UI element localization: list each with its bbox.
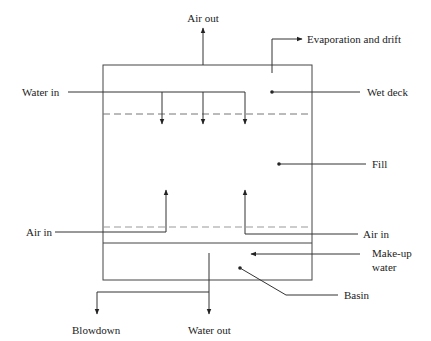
blowdown-label: Blowdown xyxy=(72,324,121,336)
air-in-left-label: Air in xyxy=(26,226,52,238)
water-in-label: Water in xyxy=(22,86,60,98)
makeup-water-label-line1: Make-up xyxy=(372,247,412,259)
evaporation-label: Evaporation and drift xyxy=(307,33,401,45)
basin-leader xyxy=(240,268,338,295)
air-in-left-arrow xyxy=(55,190,166,232)
tower-outline xyxy=(103,65,312,280)
cooling-tower-diagram: Air out Evaporation and drift Water in W… xyxy=(0,0,431,341)
fill-label: Fill xyxy=(372,158,387,170)
wet-deck-label: Wet deck xyxy=(367,86,408,98)
water-out-label: Water out xyxy=(188,324,231,336)
air-in-right-label: Air in xyxy=(363,228,389,240)
makeup-water-label-line2: water xyxy=(372,261,397,273)
blowdown-arrow xyxy=(97,292,209,314)
air-out-label: Air out xyxy=(187,12,218,24)
evaporation-arrow xyxy=(272,39,302,73)
basin-label: Basin xyxy=(344,289,370,301)
